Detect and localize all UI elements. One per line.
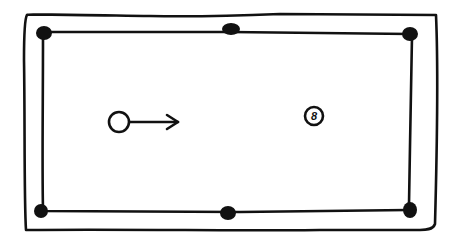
pocket-top-left [36,26,52,40]
inner-cushion [42,32,412,212]
eight-ball: 8 [305,107,323,125]
pocket-top-middle [222,23,240,35]
outer-rail [24,14,437,230]
cue-ball [109,112,129,132]
ball-number-label: 8 [311,110,318,122]
pockets [34,23,418,220]
pocket-top-right [402,27,418,41]
pocket-bottom-left [34,204,48,218]
direction-arrow-icon [130,115,178,129]
pocket-bottom-right [403,202,417,218]
pool-table-diagram: 8 [0,0,461,247]
pocket-bottom-middle [220,206,236,220]
